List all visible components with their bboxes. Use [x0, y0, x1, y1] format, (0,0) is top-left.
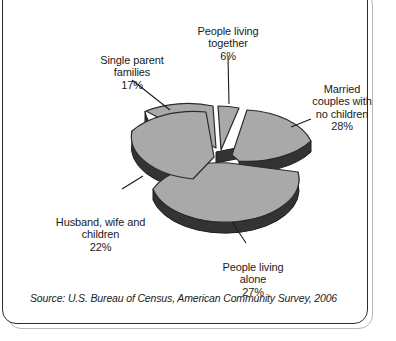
leader-line-single-parent-families	[132, 80, 170, 110]
source-note: Source: U.S. Bureau of Census, American …	[30, 292, 350, 304]
leader-line-husband-wife-and-children	[122, 176, 143, 189]
figure-page: People living together 6% Single parent …	[0, 0, 396, 341]
pie-chart	[0, 0, 396, 341]
leader-line-people-living-together	[228, 57, 229, 104]
